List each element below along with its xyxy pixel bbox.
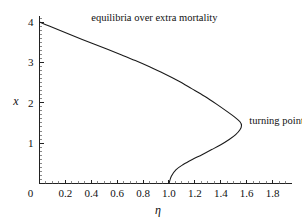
axes (40, 16, 293, 184)
annotations: equilibria over extra mortalityturning p… (91, 12, 302, 126)
turning-point-label: turning point (249, 115, 302, 126)
x-axis-title: η (155, 203, 161, 217)
x-tick-label-1.4: 1.4 (214, 187, 228, 199)
x-tick-label-1.0: 1.0 (162, 187, 176, 199)
x-axis-tick-labels: 0.20.40.60.81.01.21.41.61.80 (28, 187, 280, 199)
y-axis-title: x (12, 94, 19, 108)
chart-figure: 0.20.40.60.81.01.21.41.61.80 1234 equili… (0, 0, 302, 222)
bifurcation-plot: 0.20.40.60.81.01.21.41.61.80 1234 equili… (0, 0, 302, 222)
y-tick-label-3: 3 (28, 56, 34, 68)
y-tick-label-2: 2 (28, 97, 34, 109)
y-tick-label-4: 4 (28, 16, 34, 28)
x-tick-label-0.2: 0.2 (59, 187, 73, 199)
x-tick-label-0.6: 0.6 (110, 187, 124, 199)
y-tick-label-1: 1 (28, 137, 34, 149)
origin-label: 0 (28, 187, 34, 199)
equilibria-label: equilibria over extra mortality (91, 12, 218, 23)
x-tick-label-0.4: 0.4 (84, 187, 98, 199)
equilibrium-curve (40, 22, 242, 183)
x-tick-label-1.8: 1.8 (266, 187, 280, 199)
x-tick-label-1.6: 1.6 (240, 187, 254, 199)
y-axis-ticks (40, 18, 44, 179)
x-tick-label-0.8: 0.8 (136, 187, 150, 199)
x-axis-ticks (46, 180, 286, 184)
x-tick-label-1.2: 1.2 (188, 187, 202, 199)
y-axis-tick-labels: 1234 (28, 16, 34, 149)
